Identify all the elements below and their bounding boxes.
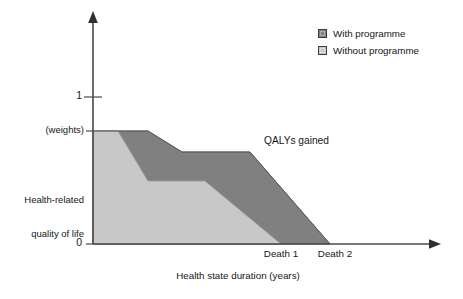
qalys-gained-annotation: QALYs gained: [264, 135, 329, 147]
legend-label-without-programme: Without programme: [333, 45, 419, 56]
qaly-chart-figure: 1 (weights) 0 Health-related quality of …: [0, 0, 463, 299]
ytick-label-weights: (weights): [6, 124, 84, 135]
y-axis-title-line-2: quality of life: [2, 228, 84, 239]
ytick-label-one: 1: [60, 89, 82, 101]
y-axis-title-line-1: Health-related: [2, 194, 84, 205]
legend-swatch-with-programme: [318, 29, 327, 38]
legend-swatch-without-programme: [318, 46, 327, 55]
y-axis-arrowhead: [88, 11, 98, 23]
y-axis-title: Health-related quality of life: [2, 172, 84, 262]
legend-label-with-programme: With programme: [333, 28, 405, 39]
chart-legend: With programme Without programme: [318, 26, 458, 60]
legend-item-without-programme: Without programme: [318, 43, 458, 58]
x-axis-title: Health state duration (years): [93, 270, 383, 282]
legend-item-with-programme: With programme: [318, 26, 458, 41]
x-axis-arrowhead: [429, 239, 441, 249]
death-2-label: Death 2: [300, 248, 370, 260]
